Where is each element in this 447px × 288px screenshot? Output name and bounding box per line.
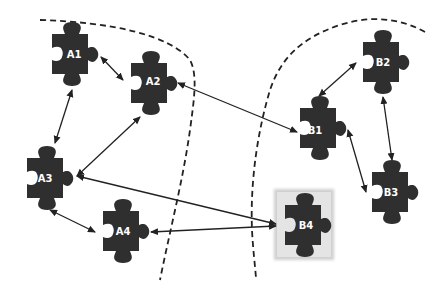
- edge-a1-a2: [101, 57, 123, 80]
- piece-label: A1: [67, 49, 82, 60]
- edge-a3-a4: [50, 210, 95, 232]
- edge-b4-a4: [151, 226, 276, 232]
- edge-a2-a3: [77, 117, 140, 176]
- piece-label: B1: [308, 125, 323, 136]
- edge-a1-a3: [55, 90, 72, 143]
- piece-label: A4: [116, 226, 131, 237]
- edge-b1-b2: [319, 63, 356, 96]
- piece-label: B3: [384, 187, 399, 198]
- puzzle-piece-a1: A1: [52, 22, 98, 86]
- piece-label: A2: [146, 76, 161, 87]
- puzzle-piece-a4: A4: [103, 199, 149, 263]
- piece-label: B4: [299, 220, 314, 231]
- puzzle-piece-b3: B3: [372, 160, 418, 224]
- edge-a2-b1: [178, 83, 297, 132]
- puzzle-piece-a2: A2: [131, 51, 177, 115]
- puzzle-piece-b1: B1: [300, 96, 346, 160]
- puzzle-piece-b2: B2: [363, 30, 409, 94]
- edges: [50, 57, 392, 232]
- diagram-canvas: A1 A2 A3 A4 B1 B2 B3 B4: [0, 0, 447, 288]
- puzzle-piece-a3: A3: [27, 146, 73, 210]
- piece-label: A3: [38, 173, 53, 184]
- piece-label: B2: [376, 57, 391, 68]
- edge-b1-b3: [348, 130, 366, 192]
- edge-b2-b3: [383, 97, 392, 160]
